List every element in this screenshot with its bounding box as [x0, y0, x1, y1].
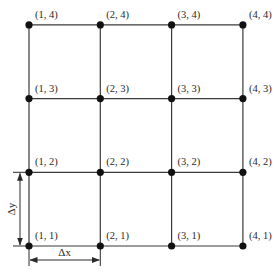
node-dot-icon — [25, 242, 32, 249]
grid-node: (2, 1) — [97, 230, 130, 250]
node-dot-icon — [239, 242, 246, 249]
dy-dimension: Δy — [5, 172, 29, 246]
node-dot-icon — [25, 95, 32, 102]
grid-node: (4, 2) — [239, 156, 272, 176]
node-label: (1, 1) — [35, 230, 58, 242]
grid-node: (2, 4) — [97, 9, 130, 29]
node-label: (2, 2) — [106, 156, 129, 168]
node-label: (2, 4) — [106, 9, 129, 21]
dy-label: Δy — [5, 202, 17, 215]
node-dot-icon — [25, 169, 32, 176]
node-dot-icon — [168, 242, 175, 249]
node-dot-icon — [25, 21, 32, 28]
grid-node: (4, 3) — [239, 83, 272, 103]
grid-node: (2, 3) — [97, 83, 130, 103]
grid-node: (3, 2) — [168, 156, 201, 176]
node-label: (2, 3) — [106, 83, 129, 95]
node-label: (4, 3) — [249, 83, 272, 95]
grid-nodes: (1, 4)(2, 4)(3, 4)(4, 4)(1, 3)(2, 3)(3, … — [25, 9, 272, 250]
dimension-annotations: Δx Δy — [5, 172, 100, 266]
grid-node: (1, 3) — [25, 83, 58, 103]
grid-node: (1, 4) — [25, 9, 58, 29]
node-dot-icon — [239, 169, 246, 176]
node-label: (1, 3) — [35, 83, 58, 95]
node-label: (3, 3) — [178, 83, 201, 95]
node-dot-icon — [168, 169, 175, 176]
grid-node: (1, 2) — [25, 156, 58, 176]
node-label: (3, 2) — [178, 156, 201, 168]
node-label: (1, 4) — [35, 9, 58, 21]
node-dot-icon — [168, 95, 175, 102]
grid-node: (4, 1) — [239, 230, 272, 250]
node-dot-icon — [97, 95, 104, 102]
node-label: (4, 1) — [249, 230, 272, 242]
grid-node: (3, 3) — [168, 83, 201, 103]
grid-node: (3, 1) — [168, 230, 201, 250]
node-dot-icon — [168, 21, 175, 28]
grid-node: (4, 4) — [239, 9, 272, 29]
node-dot-icon — [97, 242, 104, 249]
node-label: (3, 4) — [178, 9, 201, 21]
node-label: (4, 2) — [249, 156, 272, 168]
node-dot-icon — [239, 21, 246, 28]
dx-dimension: Δx — [29, 246, 100, 266]
node-dot-icon — [239, 95, 246, 102]
grid-node: (1, 1) — [25, 230, 58, 250]
node-dot-icon — [97, 21, 104, 28]
grid-diagram: Δx Δy (1, 4)(2, 4)(3, 4)(4, 4)(1, 3)(2, … — [0, 0, 278, 274]
grid-node: (2, 2) — [97, 156, 130, 176]
node-label: (3, 1) — [178, 230, 201, 242]
node-label: (2, 1) — [106, 230, 129, 242]
node-label: (4, 4) — [249, 9, 272, 21]
grid-node: (3, 4) — [168, 9, 201, 29]
grid-lines — [29, 25, 243, 246]
dx-label: Δx — [58, 246, 71, 258]
node-dot-icon — [97, 169, 104, 176]
node-label: (1, 2) — [35, 156, 58, 168]
